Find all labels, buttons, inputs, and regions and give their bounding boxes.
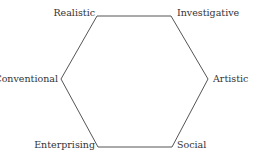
label-realistic: Realistic <box>53 7 95 18</box>
label-social: Social <box>177 139 206 150</box>
hexagon-diagram: Realistic Investigative Conventional Art… <box>0 0 254 155</box>
label-conventional: Conventional <box>0 73 58 84</box>
label-artistic: Artistic <box>213 73 248 84</box>
label-investigative: Investigative <box>177 7 239 18</box>
label-enterprising: Enterprising <box>34 139 95 150</box>
